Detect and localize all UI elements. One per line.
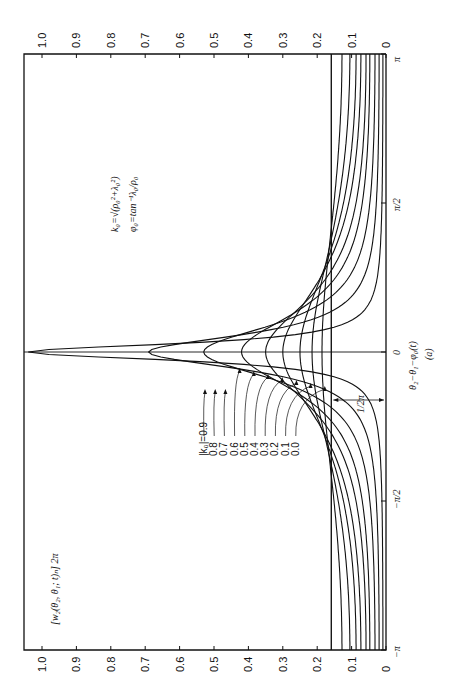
value-tick-label-bottom: 0.8 [105,657,117,672]
value-tick-label-bottom: 0.2 [311,657,323,672]
value-tick-label-top: 0.6 [174,33,186,48]
value-tick-label-top: 0.2 [311,33,323,48]
value-tick-label-bottom: 1.0 [36,657,48,672]
value-tick-label-bottom: 0.1 [346,657,358,672]
value-tick-label-top: 0.9 [70,33,82,48]
value-tick-label-bottom: 0.9 [70,657,82,672]
theta-tick-label: −π/2 [391,489,402,509]
value-tick-label-top: 0.3 [277,33,289,48]
value-tick-label-bottom: 0 [380,666,392,672]
value-tick-label-bottom: 0.3 [277,657,289,672]
value-tick-label-bottom: 0.5 [208,657,220,672]
formula-phi0: φ₀=tan⁻¹λ₀/ρ₀ [127,176,138,232]
theta-tick-label: π [391,56,402,62]
value-tick-label-top: 0.1 [346,33,358,48]
y-axis-label: [w₂(θ₂, θ₁; t)ₙ] 2π [49,553,61,625]
value-tick-label-top: 0.5 [208,33,220,48]
value-tick-label-bottom: 0.6 [174,657,186,672]
value-tick-label-bottom: 0.7 [139,657,151,672]
value-tick-label-top: 0 [380,42,392,48]
legend-label-0.0: 0.0 [290,442,301,456]
value-tick-label-bottom: 0.4 [242,657,254,672]
theta-tick-label: π/2 [391,198,402,211]
value-tick-label-top: 1.0 [36,33,48,48]
theta-tick-label: 0 [391,350,402,355]
half-pi-marker-label: 1/2π [355,394,366,413]
value-tick-label-top: 0.7 [139,33,151,48]
x-axis-label: θ₂−θ₁−φ₀(t) [407,341,419,390]
rotated-probability-density-chart: 000.10.10.20.20.30.30.40.40.50.50.60.60.… [0,0,455,700]
figure-caption: (a) [423,348,435,360]
value-tick-label-top: 0.4 [242,33,254,48]
theta-tick-label: −π [391,645,402,658]
formula-k0: k₀=√(ρ₀²+λ₀²) [109,176,121,232]
k0-legend: |k₀|=0.90.80.70.60.50.40.30.20.10.0 [198,368,327,456]
value-tick-label-top: 0.8 [105,33,117,48]
